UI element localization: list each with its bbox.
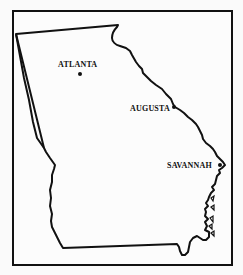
city-marker-atlanta xyxy=(78,72,82,76)
city-label-atlanta: ATLANTA xyxy=(58,60,97,69)
georgia-state-outline xyxy=(0,0,243,275)
city-marker-savannah xyxy=(218,163,222,167)
city-marker-augusta xyxy=(172,105,176,109)
city-label-savannah: SAVANNAH xyxy=(167,161,212,170)
city-label-augusta: AUGUSTA xyxy=(130,104,170,113)
